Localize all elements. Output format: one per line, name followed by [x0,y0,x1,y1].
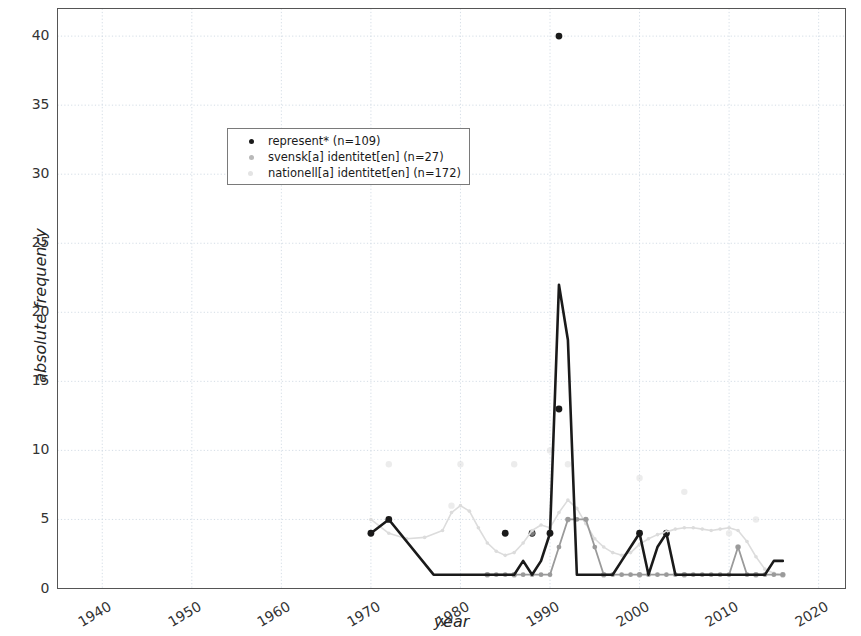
y-tick-label: 20 [10,303,50,319]
y-tick-label: 5 [10,510,50,526]
y-tick-label: 30 [10,165,50,181]
legend-marker-icon [234,139,268,144]
legend-marker-icon [234,171,268,176]
legend-label: svensk[a] identitet[en] (n=27) [268,149,444,165]
plot-frame [58,9,846,589]
chart-legend: represent* (n=109) svensk[a] identitet[e… [227,128,470,185]
y-tick-label: 15 [10,372,50,388]
legend-item: svensk[a] identitet[en] (n=27) [234,149,461,165]
figure: absolute frequency year 0510152025303540… [0,0,861,636]
legend-marker-icon [234,155,268,160]
y-tick-label: 35 [10,96,50,112]
y-tick-label: 25 [10,234,50,250]
legend-label: represent* (n=109) [268,133,381,149]
legend-item: represent* (n=109) [234,133,461,149]
legend-item: nationell[a] identitet[en] (n=172) [234,165,461,181]
series-lines [369,285,785,577]
y-tick-label: 0 [10,580,50,596]
gridlines [58,9,846,589]
chart-plot-area [0,0,861,636]
scatter-points [368,33,786,578]
legend-label: nationell[a] identitet[en] (n=172) [268,165,461,181]
y-tick-label: 40 [10,27,50,43]
y-tick-label: 10 [10,441,50,457]
